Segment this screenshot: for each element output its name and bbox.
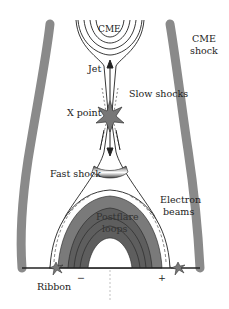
electron-beams-label-1: Electron xyxy=(160,194,201,205)
plus-polarity: + xyxy=(158,272,166,283)
x-point-label: X point xyxy=(67,107,102,118)
minus-polarity: − xyxy=(77,272,85,283)
slow-shocks-label: Slow shocks xyxy=(129,88,188,99)
cme-shock-label-2: shock xyxy=(190,45,218,56)
ribbon-label: Ribbon xyxy=(37,281,71,292)
cme-label: CME xyxy=(98,24,121,35)
jet-label: Jet xyxy=(88,63,101,74)
cme-shock-left xyxy=(21,24,50,268)
electron-beams-label-2: beams xyxy=(163,206,194,217)
postflare-label-2: loops xyxy=(102,223,127,234)
postflare-label-1: Postflare xyxy=(96,211,139,222)
cme-shock-label-1: CME xyxy=(192,33,216,44)
cme-shock-right xyxy=(170,24,200,268)
fast-shock-label: Fast shock xyxy=(50,168,101,179)
